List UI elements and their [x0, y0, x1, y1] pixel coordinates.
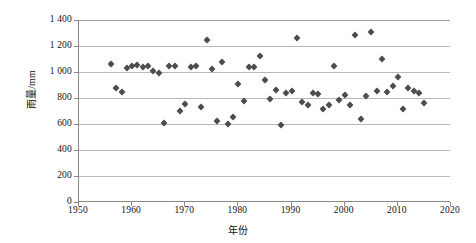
data-point [155, 70, 162, 77]
data-point [272, 87, 279, 94]
data-point [261, 76, 268, 83]
data-point [293, 34, 300, 41]
x-tick-mark [450, 202, 451, 206]
data-point [389, 83, 396, 90]
gridline [79, 150, 450, 151]
data-point [224, 120, 231, 127]
x-tick-mark [344, 202, 345, 206]
data-point [373, 87, 380, 94]
data-point [304, 102, 311, 109]
data-point [198, 104, 205, 111]
x-axis-title: 年份 [0, 222, 476, 237]
rainfall-scatter-chart: 雨量/mm 年份 02004006008001 0001 2001 400 19… [0, 0, 476, 243]
data-point [320, 106, 327, 113]
data-point [256, 52, 263, 59]
x-tick-label: 1950 [58, 205, 98, 215]
data-point [277, 122, 284, 129]
x-tick-label: 2000 [324, 205, 364, 215]
data-point [394, 74, 401, 81]
gridline [79, 72, 450, 73]
data-point [176, 107, 183, 114]
data-point [192, 63, 199, 70]
y-tick-label: 800 [26, 92, 72, 102]
data-point [219, 58, 226, 65]
gridline [79, 46, 450, 47]
data-point [357, 115, 364, 122]
data-point [182, 100, 189, 107]
x-tick-mark [237, 202, 238, 206]
x-tick-label: 1970 [164, 205, 204, 215]
data-point [352, 31, 359, 38]
data-point [235, 80, 242, 87]
data-point [346, 102, 353, 109]
data-point [267, 96, 274, 103]
data-point [378, 55, 385, 62]
data-point [416, 89, 423, 96]
x-tick-mark [184, 202, 185, 206]
x-tick-label: 2010 [377, 205, 417, 215]
data-point [315, 91, 322, 98]
gridline [79, 98, 450, 99]
x-tick-label: 1980 [217, 205, 257, 215]
data-point [160, 119, 167, 126]
data-point [107, 61, 114, 68]
y-tick-label: 1 000 [26, 66, 72, 76]
data-point [203, 36, 210, 43]
data-point [368, 28, 375, 35]
data-point [325, 101, 332, 108]
data-point [118, 88, 125, 95]
data-point [331, 63, 338, 70]
y-tick-label: 600 [26, 118, 72, 128]
x-tick-mark [291, 202, 292, 206]
x-tick-label: 1990 [271, 205, 311, 215]
data-point [400, 106, 407, 113]
data-point [384, 89, 391, 96]
y-tick-label: 1 400 [26, 14, 72, 24]
x-tick-mark [397, 202, 398, 206]
x-tick-mark [78, 202, 79, 206]
data-point [230, 113, 237, 120]
data-point [251, 64, 258, 71]
x-tick-label: 1960 [111, 205, 151, 215]
gridline [79, 124, 450, 125]
y-tick-label: 400 [26, 144, 72, 154]
data-point [421, 100, 428, 107]
x-tick-mark [131, 202, 132, 206]
y-tick-label: 200 [26, 170, 72, 180]
x-tick-label: 2020 [430, 205, 470, 215]
data-point [171, 62, 178, 69]
plot-area [78, 20, 450, 202]
gridline [79, 176, 450, 177]
gridline [79, 20, 450, 21]
y-tick-label: 1 200 [26, 40, 72, 50]
